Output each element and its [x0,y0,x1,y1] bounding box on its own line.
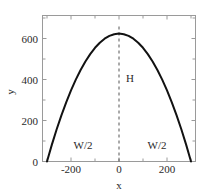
half-width-annotation-left: W/2 [74,139,93,151]
parabola-figure: -200 0 200 0 200 400 600 x y H W/2 W/2 [0,0,206,195]
x-ticklabel-neg200: -200 [61,163,82,175]
y-ticklabel-200: 200 [22,115,39,127]
y-axis-label: y [4,89,16,95]
y-ticklabel-600: 600 [22,33,39,45]
x-axis-label: x [116,179,122,191]
half-width-annotation-right: W/2 [148,139,167,151]
y-ticklabel-400: 400 [22,74,39,86]
y-axis-ticks-right [192,18,196,162]
chart-svg: -200 0 200 0 200 400 600 x y H W/2 W/2 [0,0,206,195]
x-ticklabel-0: 0 [116,163,122,175]
y-ticklabel-0: 0 [33,156,39,168]
x-ticklabel-200: 200 [159,163,176,175]
height-annotation-H: H [126,72,134,84]
y-axis-ticks [43,18,47,162]
x-axis-ticks-top [47,16,191,20]
